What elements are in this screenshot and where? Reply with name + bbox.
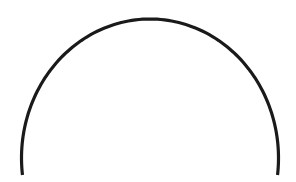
diagram-canvas	[0, 0, 296, 182]
semicircle-arc-line	[22, 19, 279, 175]
arc-figure	[0, 0, 296, 182]
